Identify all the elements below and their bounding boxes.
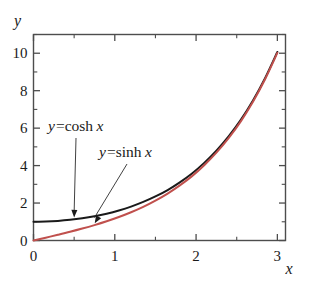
y-tick-2: 2 bbox=[20, 195, 28, 211]
y-tick-0: 0 bbox=[20, 233, 28, 249]
sinh-label-var: x bbox=[144, 143, 152, 160]
x-axis-label: x bbox=[284, 260, 292, 277]
x-tick-1: 1 bbox=[111, 248, 119, 264]
y-tick-10: 10 bbox=[13, 45, 28, 61]
cosh-label-eq: = bbox=[56, 117, 65, 134]
x-tick-3: 3 bbox=[274, 248, 282, 264]
cosh-label-y: y bbox=[46, 117, 55, 134]
sinh-label-eq: = bbox=[107, 143, 116, 160]
plot-svg: y x 01230246810 y=coshx y=sinhx bbox=[0, 0, 309, 281]
x-tick-0: 0 bbox=[30, 248, 38, 264]
x-tick-2: 2 bbox=[192, 248, 200, 264]
y-tick-4: 4 bbox=[20, 158, 28, 174]
figure-background bbox=[0, 0, 309, 281]
y-tick-8: 8 bbox=[20, 83, 28, 99]
y-tick-6: 6 bbox=[20, 120, 28, 136]
cosh-label-fn: cosh bbox=[65, 117, 94, 134]
sinh-label-y: y bbox=[97, 143, 106, 160]
hyperbolic-functions-figure: y x 01230246810 y=coshx y=sinhx bbox=[0, 0, 309, 281]
cosh-label-var: x bbox=[96, 117, 104, 134]
y-axis-label: y bbox=[12, 12, 22, 30]
sinh-label-fn: sinh bbox=[116, 143, 142, 160]
